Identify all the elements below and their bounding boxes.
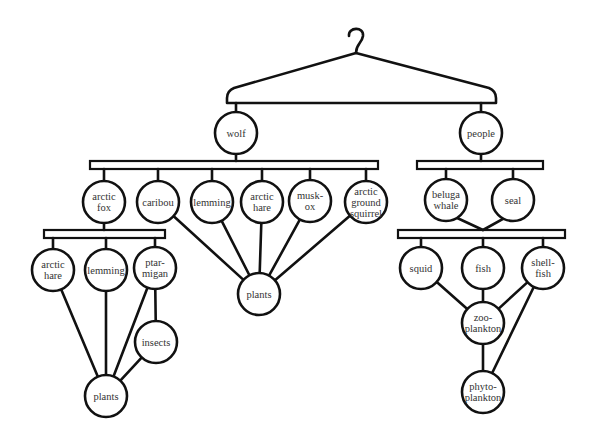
node-beluga-whale: belugawhale	[425, 179, 467, 221]
node-label: plants	[246, 289, 271, 300]
node-label: arctic	[92, 191, 116, 202]
node-label: phyto-	[469, 381, 497, 392]
edge-lemming_top-plants_center	[217, 213, 250, 278]
node-label: ground	[351, 197, 381, 208]
node-label: fish	[475, 263, 492, 274]
node-label: hare	[253, 202, 271, 213]
node-label: squirrel	[350, 208, 382, 219]
node-label: lemming	[87, 265, 125, 276]
node-label: people	[467, 128, 495, 139]
node-label: lemming	[193, 197, 231, 208]
node-label: arctic	[41, 259, 65, 270]
node-label: fish	[535, 268, 552, 279]
node-insects: insects	[135, 321, 177, 363]
node-label: caribou	[142, 197, 174, 208]
edge-arctic_hare_left-plants_left	[58, 281, 99, 379]
node-label: shell-	[531, 257, 555, 268]
node-label: fox	[97, 202, 112, 213]
node-ptarmigan: ptar-migan	[134, 247, 176, 289]
node-label: beluga	[432, 189, 460, 200]
hanger-icon	[227, 29, 496, 120]
node-wolf: wolf	[215, 112, 257, 154]
node-label: ptar-	[145, 257, 165, 268]
node-plants-left: plants	[85, 375, 127, 417]
node-label: plankton	[465, 323, 502, 334]
node-lemming-left: lemming	[85, 249, 127, 291]
node-label: seal	[505, 195, 521, 206]
node-lemming-top: lemming	[191, 181, 233, 223]
node-arctic-hare-top: arctichare	[241, 181, 283, 223]
edge-musk_ox-plants_center	[268, 212, 305, 279]
node-label: arctic	[354, 186, 378, 197]
node-label: squid	[410, 263, 434, 274]
node-label: whale	[433, 200, 458, 211]
node-label: migan	[142, 268, 169, 279]
node-phytoplankton: phyto-plankton	[462, 371, 504, 413]
node-fish: fish	[462, 247, 504, 289]
node-label: wolf	[226, 128, 246, 139]
node-people: people	[460, 112, 502, 154]
node-label: plants	[93, 391, 118, 402]
node-label: insects	[142, 337, 171, 348]
node-label: plankton	[465, 392, 502, 403]
node-label: arctic	[250, 191, 274, 202]
node-musk-ox: musk-ox	[289, 180, 331, 222]
node-arctic-hare-left: arctichare	[32, 249, 74, 291]
food-web-diagram: wolfpeoplearcticfoxcariboulemmingarctich…	[0, 0, 597, 445]
node-seal: seal	[492, 179, 534, 221]
node-label: ox	[305, 201, 316, 212]
node-label: hare	[44, 270, 62, 281]
species-nodes: wolfpeoplearcticfoxcariboulemmingarctich…	[32, 112, 564, 417]
node-label: musk-	[297, 190, 324, 201]
node-arctic-ground-squirrel: arcticgroundsquirrel	[345, 181, 387, 223]
node-squid: squid	[400, 247, 442, 289]
node-plants-center: plants	[238, 273, 280, 315]
node-arctic-fox: arcticfox	[83, 181, 125, 223]
node-zooplankton: zoo-plankton	[462, 302, 504, 344]
node-caribou: caribou	[137, 181, 179, 223]
node-shellfish: shell-fish	[522, 247, 564, 289]
node-label: zoo-	[474, 312, 493, 323]
